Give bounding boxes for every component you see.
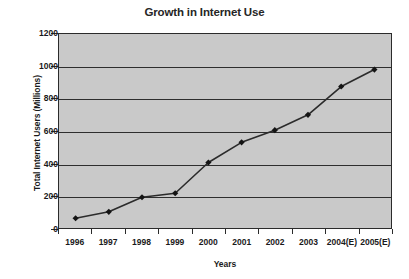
chart-figure: Growth in Internet Use Total Internet Us…: [0, 0, 409, 279]
data-point-marker: [106, 209, 112, 215]
y-tick-label: 0: [12, 225, 58, 234]
plot-area: [58, 33, 392, 229]
series-line: [76, 70, 375, 219]
y-axis-ticks: 020040060080010001200: [0, 0, 58, 279]
data-series-line: [59, 34, 391, 228]
x-tick-mark: [192, 229, 193, 234]
y-tick-label: 200: [12, 192, 58, 201]
x-tick-mark: [258, 229, 259, 234]
x-tick-label: 1998: [132, 237, 151, 247]
x-axis-ticks: 199619971998199920002001200220032004(E)2…: [58, 229, 392, 259]
chart-title: Growth in Internet Use: [0, 6, 409, 18]
x-tick-label: 2001: [232, 237, 251, 247]
x-tick-label: 2005(E): [360, 237, 390, 247]
y-tick-label: 1200: [12, 29, 58, 38]
x-tick-label: 1997: [99, 237, 118, 247]
x-tick-mark: [392, 229, 393, 234]
data-point-marker: [73, 215, 79, 221]
x-tick-mark: [58, 229, 59, 234]
x-axis-title: Years: [58, 259, 392, 269]
x-tick-mark: [158, 229, 159, 234]
y-tick-label: 1000: [12, 62, 58, 71]
y-tick-label: 800: [12, 94, 58, 103]
x-tick-label: 2000: [199, 237, 218, 247]
x-tick-label: 2003: [299, 237, 318, 247]
x-tick-mark: [91, 229, 92, 234]
x-tick-label: 2002: [266, 237, 285, 247]
data-point-marker: [272, 127, 278, 133]
y-tick-label: 600: [12, 127, 58, 136]
data-point-marker: [371, 66, 377, 72]
x-tick-mark: [125, 229, 126, 234]
x-tick-label: 1999: [165, 237, 184, 247]
x-tick-mark: [225, 229, 226, 234]
x-tick-mark: [292, 229, 293, 234]
x-tick-label: 1996: [65, 237, 84, 247]
x-tick-mark: [325, 229, 326, 234]
y-tick-label: 400: [12, 160, 58, 169]
x-tick-mark: [359, 229, 360, 234]
x-tick-label: 2004(E): [327, 237, 357, 247]
data-point-marker: [139, 194, 145, 200]
